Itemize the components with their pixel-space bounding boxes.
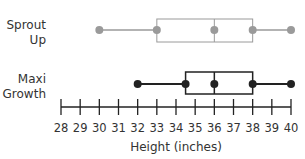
data-point <box>95 26 103 34</box>
iqr-box <box>186 72 253 94</box>
x-tick-label: 35 <box>188 121 203 135</box>
x-tick-label: 30 <box>92 121 107 135</box>
x-tick-label: 34 <box>169 121 184 135</box>
data-point <box>182 80 190 88</box>
x-axis-title: Height (inches) <box>130 140 222 154</box>
data-point <box>210 26 218 34</box>
data-point <box>134 80 142 88</box>
x-tick-label: 40 <box>284 121 299 135</box>
box-plot: 28293031323334353637383940Height (inches… <box>0 0 305 159</box>
x-tick-label: 39 <box>265 121 280 135</box>
x-tick-label: 37 <box>226 121 241 135</box>
x-tick-label: 36 <box>207 121 222 135</box>
x-tick-label: 29 <box>73 121 88 135</box>
iqr-box <box>157 19 253 42</box>
x-tick-label: 28 <box>54 121 69 135</box>
x-tick-label: 32 <box>130 121 145 135</box>
data-point <box>249 80 257 88</box>
data-point <box>210 80 218 88</box>
x-tick-label: 31 <box>111 121 126 135</box>
data-point <box>249 26 257 34</box>
x-tick-label: 38 <box>245 121 260 135</box>
data-point <box>287 80 295 88</box>
data-point <box>287 26 295 34</box>
x-tick-label: 33 <box>150 121 165 135</box>
data-point <box>153 26 161 34</box>
